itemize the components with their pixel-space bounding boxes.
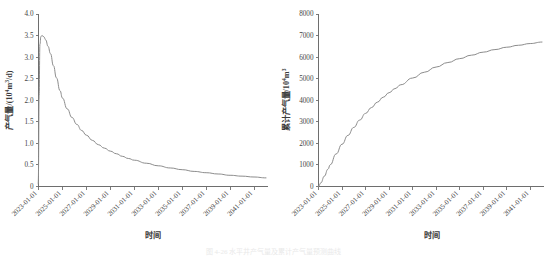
y-tick-label: 8000 [299,10,314,18]
y-tick-label: 4.0 [25,10,34,18]
gas-rate-axis-lines [39,14,269,187]
gas-rate-x-axis-title: 时间 [145,230,161,240]
gas-rate-y-tick-labels: 00.51.01.52.02.53.03.54.0 [25,10,34,191]
chart-panel-gas-rate: 00.51.01.52.02.53.03.54.0 2023-01-012025… [0,0,273,258]
y-tick-label: 1.0 [25,140,34,148]
y-tick-label: 1.5 [25,118,34,126]
x-tick-label: 2041-01-01 [226,189,255,218]
y-tick-label: 4000 [299,97,314,105]
y-tick-label: 2.0 [25,97,34,105]
gas-rate-curve [39,36,267,185]
y-tick-label: 3.5 [25,32,34,40]
y-tick-label: 3.0 [25,54,34,62]
figure-caption: 图 4-26 水平井产气量及累计产气量预测曲线 [0,247,547,258]
cumulative-gas-curve [319,42,543,186]
cumulative-gas-x-tick-labels: 2023-01-012025-01-012027-01-012029-01-01… [290,189,531,218]
y-tick-label: 1000 [299,161,314,169]
gas-rate-y-axis-title: 产气量/(104m3/d) [4,70,14,129]
chart-panel-cumulative-gas: 010002000300040005000600070008000 2023-0… [274,0,547,258]
y-tick-label: 6000 [299,54,314,62]
gas-rate-plot: 00.51.01.52.02.53.03.54.0 2023-01-012025… [0,0,273,258]
cumulative-gas-x-axis-title: 时间 [424,230,440,240]
y-tick-label: 0.5 [25,161,34,169]
y-tick-label: 2000 [299,140,314,148]
gas-rate-axes [39,14,269,187]
cumulative-gas-plot: 010002000300040005000600070008000 2023-0… [274,0,547,258]
cumulative-gas-y-tick-labels: 010002000300040005000600070008000 [299,10,314,191]
cumulative-gas-y-axis-title: 累计产气量/104m3 [281,68,291,131]
y-tick-label: 7000 [299,32,314,40]
y-tick-label: 3000 [299,118,314,126]
cumulative-gas-axis-lines [319,14,545,187]
x-tick-label: 2041-01-01 [502,189,531,218]
gas-rate-x-tick-labels: 2023-01-012025-01-012027-01-012029-01-01… [10,189,255,218]
y-tick-label: 2.5 [25,75,34,83]
figure-container: 00.51.01.52.02.53.03.54.0 2023-01-012025… [0,0,547,258]
cumulative-gas-axes [319,14,545,187]
y-tick-label: 5000 [299,75,314,83]
